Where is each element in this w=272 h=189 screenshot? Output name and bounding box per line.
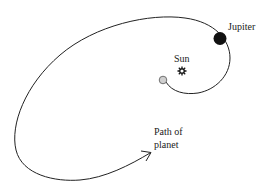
path-label-line1: Path of (154, 126, 183, 137)
path-label-line2: planet (154, 139, 178, 150)
planet-path (15, 17, 230, 180)
jupiter-icon (214, 32, 227, 45)
arrowhead-icon (141, 151, 151, 161)
orbit-diagram: Jupiter Sun Path of planet (0, 0, 272, 189)
sun-icon (178, 67, 187, 76)
start-planet-icon (159, 76, 167, 84)
sun-label: Sun (174, 53, 190, 64)
jupiter-label: Jupiter (228, 21, 255, 32)
